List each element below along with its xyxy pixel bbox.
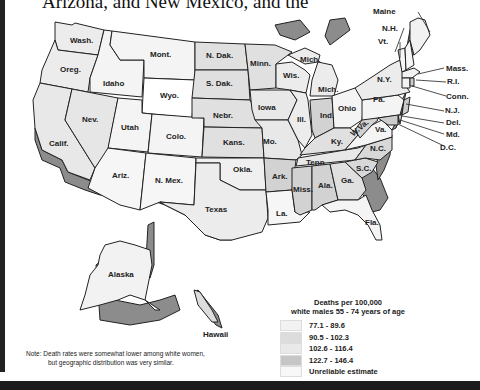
label-nj: N.J.: [445, 106, 460, 115]
label-nmex: N. Mex.: [155, 176, 183, 185]
footnote-line2: but geographic distribution was very sim…: [26, 359, 205, 368]
label-mich-up: Mich.: [300, 55, 320, 64]
legend-item: 122.7 - 146.4: [280, 355, 418, 367]
label-nc: N.C.: [370, 144, 386, 153]
label-mich: Mich.: [318, 85, 338, 94]
footnote: Note: Death rates were somewhat lower am…: [26, 350, 205, 367]
label-tenn: Tenn.: [306, 158, 327, 167]
label-alaska: Alaska: [108, 270, 134, 279]
label-sc: S.C.: [356, 164, 372, 173]
label-ndak: N. Dak.: [206, 51, 233, 60]
label-utah: Utah: [121, 123, 139, 132]
label-ark: Ark.: [272, 172, 288, 181]
label-maine: Maine: [373, 7, 396, 16]
label-minn: Minn.: [250, 59, 271, 68]
label-ill: Ill.: [297, 115, 306, 124]
label-ga: Ga.: [341, 176, 354, 185]
label-nev: Nev.: [82, 115, 98, 124]
label-okla: Okla.: [233, 165, 253, 174]
label-la: La.: [276, 209, 288, 218]
label-ind: Ind.: [320, 111, 334, 120]
label-idaho: Idaho: [103, 79, 124, 88]
label-mass: Mass.: [446, 64, 468, 73]
legend-item: 102.6 - 116.4: [280, 343, 418, 355]
label-conn: Conn.: [446, 92, 469, 101]
legend-swatch: [280, 366, 302, 377]
label-kans: Kans.: [223, 138, 245, 147]
legend-title-line2: white males 55 - 74 years of age: [278, 307, 418, 316]
legend-label: 102.6 - 116.4: [309, 344, 353, 353]
legend-title-line1: Deaths per 100,000: [278, 298, 418, 307]
state-maine[interactable]: [410, 18, 430, 55]
legend-swatch: [280, 320, 302, 331]
label-mont: Mont.: [150, 50, 171, 59]
state-conn[interactable]: [402, 78, 410, 88]
label-miss: Miss.: [293, 185, 313, 194]
label-texas: Texas: [205, 205, 228, 214]
label-nebr: Nebr.: [213, 111, 233, 120]
label-ala: Ala.: [318, 181, 333, 190]
legend-label: Unreliable estimate: [309, 367, 378, 376]
label-nh: N.H.: [382, 24, 398, 33]
label-ky: Ky.: [331, 137, 343, 146]
label-ri: R.I.: [447, 77, 459, 86]
label-iowa: Iowa: [258, 103, 276, 112]
legend-label: 90.5 - 102.3: [309, 333, 349, 342]
footnote-line1: Note: Death rates were somewhat lower am…: [26, 350, 205, 357]
label-calif: Calif.: [49, 139, 69, 148]
label-wash: Wash.: [70, 36, 93, 45]
legend: Deaths per 100,000 white males 55 - 74 y…: [278, 298, 418, 378]
state-hawaii[interactable]: [194, 290, 218, 322]
label-fla: Fla.: [365, 218, 379, 227]
label-pa: Pa.: [373, 95, 385, 104]
label-wis: Wis.: [283, 71, 299, 80]
label-oreg: Oreg.: [60, 65, 81, 74]
label-va: Va.: [375, 125, 387, 134]
label-wyo: Wyo.: [160, 91, 179, 100]
legend-label: 122.7 - 146.4: [309, 356, 353, 365]
page-edge-bottom: [0, 381, 480, 390]
legend-swatch: [280, 332, 302, 343]
label-del: Del.: [446, 118, 461, 127]
state-ri[interactable]: [410, 78, 414, 86]
state-del[interactable]: [398, 115, 402, 124]
label-dc: D.C.: [440, 143, 456, 152]
legend-label: 77.1 - 89.6: [309, 321, 345, 330]
legend-item: Unreliable estimate: [280, 366, 418, 378]
label-mo: Mo.: [263, 137, 277, 146]
label-sdak: S. Dak.: [206, 79, 233, 88]
legend-item: 77.1 - 89.6: [280, 320, 418, 332]
label-md: Md.: [446, 130, 460, 139]
label-colo: Colo.: [166, 132, 186, 141]
label-ariz: Ariz.: [112, 171, 129, 180]
label-hawaii: Hawaii: [203, 330, 228, 339]
label-ohio: Ohio: [338, 104, 356, 113]
label-vt: Vt.: [378, 37, 388, 46]
legend-swatch: [280, 343, 302, 354]
label-ny: N.Y.: [377, 75, 392, 84]
legend-swatch: [280, 355, 302, 366]
legend-item: 90.5 - 102.3: [280, 332, 418, 344]
